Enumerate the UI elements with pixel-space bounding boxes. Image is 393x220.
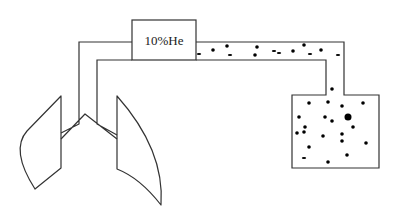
helium-particle	[340, 139, 344, 143]
tube-inner-wall	[97, 60, 132, 110]
helium-particle	[302, 43, 306, 47]
helium-particle	[323, 115, 327, 119]
helium-particle	[197, 53, 201, 55]
helium-particle	[340, 132, 344, 136]
helium-particle	[326, 100, 330, 104]
helium-particle	[307, 145, 311, 149]
helium-particle	[336, 54, 340, 56]
helium-particles-in-pipe	[197, 43, 340, 91]
helium-particle	[319, 48, 323, 52]
helium-particles-in-tank	[295, 100, 368, 164]
helium-particle	[228, 54, 232, 56]
left-lung	[20, 96, 61, 189]
helium-particle	[295, 131, 299, 135]
spirometer-pipe-and-tank	[196, 42, 379, 168]
helium-particle	[364, 141, 368, 145]
helium-dilution-diagram: 10%He	[0, 0, 393, 220]
helium-particle	[303, 125, 307, 129]
trachea-tube	[79, 42, 132, 110]
helium-particle	[330, 119, 334, 123]
helium-particle	[225, 44, 229, 48]
helium-particle	[361, 101, 365, 105]
helium-particle	[272, 50, 276, 52]
helium-particle	[297, 115, 301, 119]
gas-source-box: 10%He	[132, 20, 196, 60]
pipe-and-tank-outline	[196, 42, 379, 168]
tube-outer-wall	[79, 42, 132, 110]
helium-particle	[345, 114, 352, 121]
bronchi-trachea-junction	[61, 110, 117, 139]
helium-particle	[302, 157, 306, 159]
helium-particle	[330, 87, 334, 91]
gas-source-label: 10%He	[145, 33, 184, 48]
helium-particle	[302, 130, 306, 134]
right-lung	[117, 96, 161, 205]
helium-particle	[291, 49, 295, 53]
helium-particle	[351, 125, 355, 129]
helium-particle	[321, 134, 325, 138]
lungs	[20, 96, 161, 205]
helium-particle	[345, 153, 349, 157]
helium-particle	[211, 48, 215, 52]
helium-particle	[340, 104, 344, 108]
helium-particle	[308, 53, 312, 55]
helium-particle	[326, 160, 330, 164]
helium-particle	[255, 45, 259, 49]
helium-particle	[277, 52, 281, 54]
helium-particle	[253, 53, 257, 57]
helium-particle	[307, 101, 311, 105]
